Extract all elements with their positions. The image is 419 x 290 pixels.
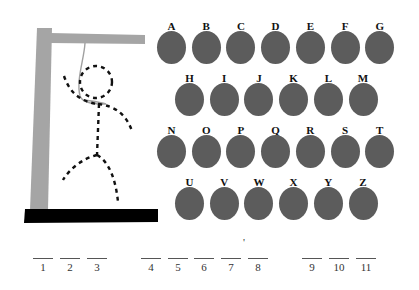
letter-blank: 5 — [168, 258, 188, 282]
letter-blank: 1 — [33, 258, 53, 282]
blank-number: 8 — [248, 261, 268, 273]
letter-blank: 6 — [194, 258, 214, 282]
blank-number: 2 — [60, 261, 80, 273]
letter-blank: 3 — [87, 258, 107, 282]
letter-key-p[interactable]: P — [226, 124, 255, 168]
blank-number: 9 — [302, 261, 322, 273]
letter-key-d[interactable]: D — [261, 20, 290, 64]
letter-key-r[interactable]: R — [296, 124, 325, 168]
letter-key-v[interactable]: V — [210, 176, 239, 220]
letter-key-button[interactable] — [226, 31, 255, 64]
letter-key-button[interactable] — [279, 187, 308, 220]
letter-key-a[interactable]: A — [157, 20, 186, 64]
letter-key-e[interactable]: E — [296, 20, 325, 64]
figure-body — [97, 104, 99, 155]
blank-underline — [60, 258, 80, 259]
letter-key-h[interactable]: H — [175, 72, 204, 116]
blank-underline — [194, 258, 214, 259]
gallows-beam — [50, 33, 145, 44]
letter-key-button[interactable] — [210, 187, 239, 220]
letter-key-q[interactable]: Q — [261, 124, 290, 168]
letter-key-l[interactable]: L — [314, 72, 343, 116]
letter-key-button[interactable] — [365, 31, 394, 64]
blank-underline — [168, 258, 188, 259]
letter-key-button[interactable] — [296, 135, 325, 168]
letter-key-button[interactable] — [331, 135, 360, 168]
apostrophe: ' — [243, 237, 245, 247]
letter-key-b[interactable]: B — [192, 20, 221, 64]
blank-underline — [356, 258, 376, 259]
letter-blank: 11 — [356, 258, 376, 282]
figure-head — [80, 66, 112, 98]
blank-underline — [33, 258, 53, 259]
letter-key-button[interactable] — [349, 187, 378, 220]
letter-key-button[interactable] — [192, 31, 221, 64]
letter-key-m[interactable]: M — [349, 72, 378, 116]
letter-key-button[interactable] — [261, 31, 290, 64]
blank-underline — [302, 258, 322, 259]
blank-underline — [221, 258, 241, 259]
letter-key-button[interactable] — [157, 31, 186, 64]
letter-blank: 4 — [141, 258, 161, 282]
blank-number: 3 — [87, 261, 107, 273]
letter-key-button[interactable] — [244, 83, 273, 116]
letter-key-u[interactable]: U — [175, 176, 204, 220]
blank-number: 7 — [221, 261, 241, 273]
figure-right-leg — [97, 155, 118, 202]
blank-underline — [329, 258, 349, 259]
letter-key-button[interactable] — [261, 135, 290, 168]
blank-number: 6 — [194, 261, 214, 273]
blank-number: 10 — [329, 261, 349, 273]
letter-key-z[interactable]: Z — [349, 176, 378, 220]
gallows-base — [24, 209, 158, 223]
letter-blank: 9 — [302, 258, 322, 282]
letter-key-button[interactable] — [279, 83, 308, 116]
letter-key-x[interactable]: X — [279, 176, 308, 220]
blank-underline — [248, 258, 268, 259]
letter-key-button[interactable] — [349, 83, 378, 116]
letter-key-w[interactable]: W — [244, 176, 273, 220]
letter-key-button[interactable] — [226, 135, 255, 168]
letter-key-button[interactable] — [175, 83, 204, 116]
letter-key-button[interactable] — [296, 31, 325, 64]
gallows-post — [30, 28, 52, 210]
letter-blank: 7 — [221, 258, 241, 282]
letter-blank: 10 — [329, 258, 349, 282]
letter-key-i[interactable]: I — [210, 72, 239, 116]
letter-key-button[interactable] — [331, 31, 360, 64]
blank-underline — [87, 258, 107, 259]
letter-key-o[interactable]: O — [192, 124, 221, 168]
letter-key-j[interactable]: J — [244, 72, 273, 116]
blank-underline — [141, 258, 161, 259]
figure-right-arm — [98, 104, 132, 131]
letter-key-s[interactable]: S — [331, 124, 360, 168]
letter-blank: 8 — [248, 258, 268, 282]
letter-key-button[interactable] — [314, 187, 343, 220]
blank-number: 1 — [33, 261, 53, 273]
letter-key-t[interactable]: T — [365, 124, 394, 168]
blank-number: 5 — [168, 261, 188, 273]
blank-number: 11 — [356, 261, 376, 273]
letter-key-button[interactable] — [157, 135, 186, 168]
letter-key-button[interactable] — [244, 187, 273, 220]
letter-key-button[interactable] — [192, 135, 221, 168]
figure-left-leg — [63, 155, 97, 180]
letter-key-y[interactable]: Y — [314, 176, 343, 220]
letter-key-button[interactable] — [365, 135, 394, 168]
letter-key-button[interactable] — [210, 83, 239, 116]
letter-key-c[interactable]: C — [226, 20, 255, 64]
hangman-gallows-drawing — [0, 0, 170, 230]
blank-number: 4 — [141, 261, 161, 273]
letter-key-k[interactable]: K — [279, 72, 308, 116]
letter-key-n[interactable]: N — [157, 124, 186, 168]
letter-key-button[interactable] — [175, 187, 204, 220]
letter-blank: 2 — [60, 258, 80, 282]
letter-key-f[interactable]: F — [331, 20, 360, 64]
letter-key-g[interactable]: G — [365, 20, 394, 64]
letter-key-button[interactable] — [314, 83, 343, 116]
